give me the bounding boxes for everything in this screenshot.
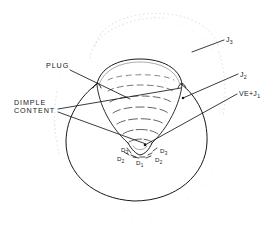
leader-line-ve-j1 [145,94,237,145]
flux-label-ve-j1: VE+J1 [239,90,260,98]
leader-line-j2 [183,74,238,98]
callout-dimple-content: DIMPLE CONTENT [14,99,55,116]
leader-line-plug [70,70,130,99]
flux-label-ve-j1-base: VE+J [239,90,257,97]
outer-body-outline [66,84,207,201]
technical-diagram-figure: DIMPLE CONTENT PLUG J3 J2 VE+J1 D3 D2 D1… [0,0,277,242]
drainage-label-d3-left: D3 [121,146,128,153]
dimple-rim-ellipse [97,59,182,84]
junction-dot-plug [144,144,147,147]
leader-line-j3 [192,40,224,52]
drainage-label-d2-right-base: D [155,156,160,163]
drainage-label-d3-right-sub: 3 [165,151,168,156]
drainage-label-d1-sub: 1 [141,163,144,168]
diagram-linework [0,0,277,242]
flux-label-j2: J2 [240,71,247,79]
drainage-label-d2-right: D2 [155,156,162,163]
flux-label-j3: J3 [226,36,233,44]
plug-throat [128,143,152,155]
dimple-funnel-left-wall [97,85,128,143]
drainage-label-d2-left: D2 [117,155,124,162]
junction-dot-rim-right [182,97,185,100]
leader-line-dimple-content [58,88,181,109]
drainage-label-d1: D1 [136,159,143,166]
leader-line-dimple-content-lower [58,112,146,144]
drainage-label-d2-right-sub: 2 [160,160,163,165]
flux-label-ve-j1-sub: 1 [257,93,260,99]
callout-dimple-content-line2: CONTENT [14,107,55,115]
drainage-label-d2-left-sub: 2 [122,159,125,164]
drainage-label-d3-right-base: D [160,147,165,154]
flux-label-j3-sub: 3 [230,39,233,45]
plug-neck-shading [133,146,147,150]
drainage-label-d3-right: D3 [160,147,167,154]
dimple-funnel-right-wall [152,85,182,143]
callout-plug: PLUG [46,62,69,70]
drainage-label-d1-base: D [136,159,141,166]
drainage-label-d2-left-base: D [117,155,122,162]
drainage-label-d3-left-base: D [121,146,126,153]
drainage-label-d3-left-sub: 3 [126,150,129,155]
flux-label-j2-sub: 2 [244,74,247,80]
faint-speckle-field [54,17,223,222]
